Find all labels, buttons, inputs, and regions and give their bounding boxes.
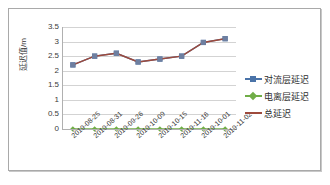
series-0-markers-overlay (70, 36, 227, 67)
y-axis-tick-label: 2.5 (48, 52, 59, 60)
chart-frame: 00.511.522.533.5 延迟值/m 2019-08-252019-08… (8, 8, 321, 171)
chart-area: 00.511.522.533.5 延迟值/m 2019-08-252019-08… (9, 9, 322, 172)
legend-label: 电离层延迟 (264, 90, 309, 103)
y-axis-tick-label: 1 (55, 96, 59, 104)
y-axis-tick-label: 3.5 (48, 23, 59, 31)
data-point-marker (201, 40, 206, 45)
y-axis-tick-label: 3 (55, 38, 59, 46)
legend-item-1[interactable]: 电离层延迟 (245, 88, 321, 104)
legend-item-2[interactable]: 总延迟 (245, 105, 321, 121)
y-axis-tick-label: 0 (55, 125, 59, 133)
y-axis-tick-label: 2 (55, 67, 59, 75)
data-point-marker (223, 36, 228, 41)
chart-screenshot: 00.511.522.533.5 延迟值/m 2019-08-252019-08… (0, 0, 330, 185)
data-point-marker (114, 51, 119, 56)
data-point-marker (92, 54, 97, 59)
legend-swatch-icon (245, 74, 262, 84)
series-layer (62, 27, 236, 129)
y-axis-tick-label: 1.5 (48, 81, 59, 89)
legend-label: 对流层延迟 (264, 73, 309, 86)
legend-swatch-icon (245, 108, 262, 118)
data-point-marker (136, 59, 141, 64)
plot-region (62, 27, 236, 129)
y-axis-title: 延迟值/m (17, 30, 28, 80)
data-point-marker (70, 62, 75, 67)
legend-swatch-icon (245, 91, 262, 101)
legend-item-0[interactable]: 对流层延迟 (245, 71, 321, 87)
legend-label: 总延迟 (264, 107, 291, 120)
data-point-marker (179, 54, 184, 59)
y-axis-line (62, 27, 63, 130)
y-axis-tick-label: 0.5 (48, 110, 59, 118)
y-axis-tick-labels: 00.511.522.533.5 (33, 9, 59, 172)
data-point-marker (157, 56, 162, 61)
chart-legend: 对流层延迟电离层延迟总延迟 (245, 71, 321, 122)
